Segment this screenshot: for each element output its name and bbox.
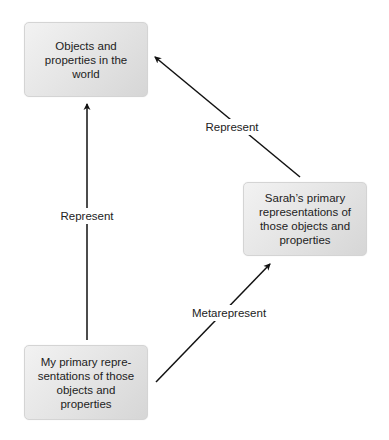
arrow-mine-to-sarah [156,264,270,382]
node-text-line: properties [38,397,135,411]
node-text-line: those objects and [259,219,351,233]
edge-label-represent-diagonal: Represent [202,119,261,135]
node-text-line: Sarah’s primary [259,191,351,205]
node-my-representations: My primary repre- sentations of those ob… [24,345,148,420]
edge-label-metarepresent: Metarepresent [189,305,269,321]
node-text-line: representations of [259,205,351,219]
node-text-line: My primary repre- [38,355,135,369]
node-text-line: sentations of those [38,369,135,383]
arrow-sarah-to-world [155,57,300,177]
edge-label-represent-vertical: Represent [57,208,116,224]
node-objects-in-world: Objects and properties in the world [24,22,148,97]
node-text-line: properties [259,233,351,247]
node-sarahs-representations: Sarah’s primary representations of those… [243,182,367,256]
node-text-line: properties in the [45,53,127,67]
node-text-line: world [45,67,127,81]
node-text-line: Objects and [45,39,127,53]
diagram-canvas: Objects and properties in the world Sara… [0,0,389,440]
node-text-line: objects and [38,383,135,397]
